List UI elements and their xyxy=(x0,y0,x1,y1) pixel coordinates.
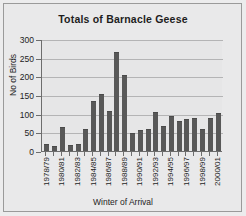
x-axis-tick-labels: 1978/791980/811982/831984/851986/871988/… xyxy=(41,157,222,197)
x-axis-tick xyxy=(69,152,70,156)
x-axis-tick xyxy=(92,152,93,156)
bar-slot xyxy=(206,39,214,151)
x-label-slot: 1998/99 xyxy=(198,157,206,197)
x-label-slot: 1992/93 xyxy=(151,157,159,197)
bar-slot xyxy=(129,39,137,151)
x-axis-ticks xyxy=(41,152,222,156)
x-axis-tick xyxy=(61,152,62,156)
bar-slot xyxy=(59,39,67,151)
bar xyxy=(83,129,88,151)
x-axis-tick xyxy=(201,152,202,156)
bar xyxy=(200,129,205,151)
bar xyxy=(130,133,135,151)
y-axis-tick-label: 300 xyxy=(8,35,34,45)
bar xyxy=(60,127,65,151)
x-axis-tick xyxy=(185,152,186,156)
x-tick-slot xyxy=(135,152,143,156)
bar-slot xyxy=(183,39,191,151)
bar xyxy=(153,112,158,151)
x-axis-tick xyxy=(170,152,171,156)
y-axis-tick xyxy=(36,40,41,41)
bar-slot xyxy=(121,39,129,151)
bar-slot xyxy=(199,39,207,151)
bar xyxy=(138,130,143,151)
x-tick-slot xyxy=(205,152,213,156)
x-tick-slot xyxy=(58,152,66,156)
x-axis-tick xyxy=(154,152,155,156)
x-tick-slot xyxy=(174,152,182,156)
y-axis-tick-label: 0 xyxy=(8,147,34,157)
x-tick-slot xyxy=(42,152,50,156)
bar xyxy=(169,116,174,151)
x-axis-tick xyxy=(147,152,148,156)
y-axis-tick xyxy=(36,96,41,97)
x-axis-tick xyxy=(123,152,124,156)
bar-slot xyxy=(175,39,183,151)
x-tick-slot xyxy=(159,152,167,156)
bar xyxy=(44,144,49,151)
x-axis-tick xyxy=(131,152,132,156)
x-tick-slot xyxy=(190,152,198,156)
x-axis-tick xyxy=(77,152,78,156)
bar-slot xyxy=(51,39,59,151)
bar-slot xyxy=(144,39,152,151)
x-label-slot: 1986/87 xyxy=(104,157,112,197)
bar-slot xyxy=(113,39,121,151)
y-axis-tick-label: 100 xyxy=(8,110,34,120)
bar xyxy=(99,94,104,151)
bar-slot xyxy=(152,39,160,151)
x-tick-slot xyxy=(143,152,151,156)
bar-slot xyxy=(136,39,144,151)
x-axis-tick xyxy=(209,152,210,156)
x-axis-tick xyxy=(108,152,109,156)
bar xyxy=(68,145,73,151)
x-axis-title: Winter of Arrival xyxy=(0,197,246,207)
bar xyxy=(107,111,112,151)
bar xyxy=(184,119,189,151)
bar-slot xyxy=(66,39,74,151)
x-label-slot: 1982/83 xyxy=(73,157,81,197)
x-tick-slot xyxy=(198,152,206,156)
x-label-slot: 1980/81 xyxy=(58,157,66,197)
x-label-slot: 1984/85 xyxy=(89,157,97,197)
y-axis-tick xyxy=(36,77,41,78)
plot-area: 050100150200250300 xyxy=(41,40,222,152)
bar xyxy=(114,52,119,151)
bar xyxy=(52,146,57,151)
x-tick-slot xyxy=(81,152,89,156)
y-axis-tick-label: 250 xyxy=(8,54,34,64)
chart-figure: Totals of Barnacle Geese No of Birds 050… xyxy=(0,0,246,216)
x-axis-tick xyxy=(100,152,101,156)
bar xyxy=(91,101,96,151)
y-axis-tick-label: 50 xyxy=(8,128,34,138)
x-axis-tick xyxy=(139,152,140,156)
x-tick-slot xyxy=(213,152,221,156)
bar-slot xyxy=(214,39,222,151)
x-axis-tick xyxy=(162,152,163,156)
bar xyxy=(76,144,81,151)
x-tick-slot xyxy=(128,152,136,156)
x-label-slot: 1990/91 xyxy=(135,157,143,197)
y-axis-tick-label: 200 xyxy=(8,72,34,82)
x-tick-slot xyxy=(50,152,58,156)
x-label-slot: 1988/89 xyxy=(120,157,128,197)
x-axis-tick xyxy=(53,152,54,156)
x-axis-tick xyxy=(115,152,116,156)
y-axis-tick xyxy=(36,115,41,116)
bar-slot xyxy=(82,39,90,151)
bar-slot xyxy=(191,39,199,151)
bar xyxy=(208,118,213,151)
x-tick-slot xyxy=(104,152,112,156)
bar-slot xyxy=(105,39,113,151)
x-tick-slot xyxy=(182,152,190,156)
y-axis-tick xyxy=(36,59,41,60)
bar-slot xyxy=(168,39,176,151)
x-axis-tick xyxy=(193,152,194,156)
x-tick-slot xyxy=(89,152,97,156)
x-axis-tick-label: 2000/01 xyxy=(213,157,222,186)
x-axis-tick xyxy=(45,152,46,156)
bar-slot xyxy=(160,39,168,151)
x-tick-slot xyxy=(120,152,128,156)
bar-slot xyxy=(74,39,82,151)
bar xyxy=(192,118,197,151)
